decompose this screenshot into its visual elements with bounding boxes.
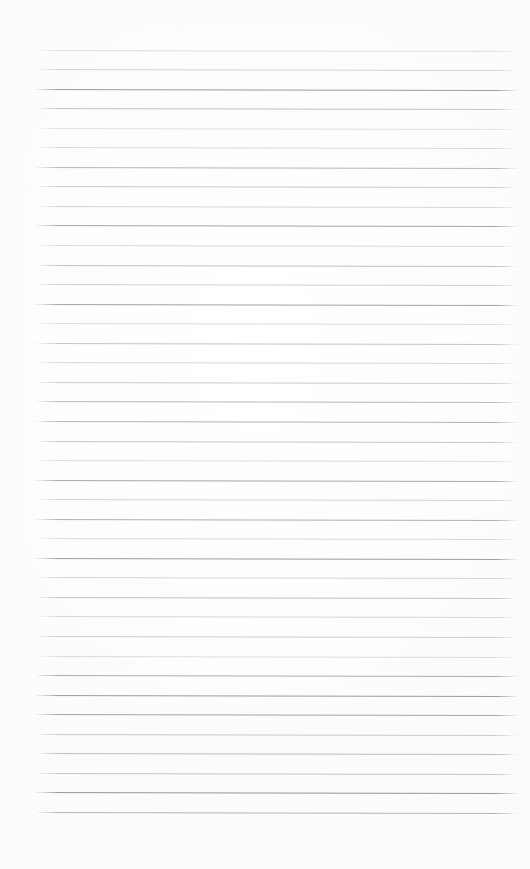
ruled-line — [33, 128, 521, 130]
ruled-line — [33, 225, 521, 227]
ruled-line — [33, 460, 521, 462]
ruled-line — [33, 108, 521, 110]
ruled-line — [33, 167, 521, 169]
ruled-line — [33, 714, 521, 716]
ruled-line — [33, 753, 521, 755]
ruled-line — [33, 616, 521, 618]
ruled-line — [33, 577, 521, 579]
ruled-line — [33, 792, 521, 794]
ruled-line — [33, 343, 521, 345]
scanned-page — [0, 0, 530, 869]
ruled-line — [33, 480, 521, 482]
ruled-line — [33, 147, 521, 149]
ruled-line — [33, 362, 521, 364]
ruled-line — [33, 636, 521, 638]
ruled-line — [33, 265, 521, 267]
ruled-line — [33, 382, 521, 384]
ruled-line — [33, 441, 521, 443]
ruled-line — [33, 206, 521, 208]
ruled-line — [33, 245, 521, 247]
ruled-line — [33, 597, 521, 599]
ruled-line — [33, 734, 521, 736]
ruled-line — [33, 656, 521, 658]
ruled-line — [33, 499, 521, 501]
ruled-lines-layer — [0, 0, 530, 869]
ruled-line — [33, 89, 521, 91]
ruled-line — [33, 773, 521, 775]
ruled-line — [33, 186, 521, 188]
ruled-line — [33, 304, 521, 306]
ruled-line — [33, 421, 521, 423]
ruled-line — [33, 323, 521, 325]
ruled-line — [33, 812, 521, 814]
ruled-line — [33, 401, 521, 403]
ruled-line — [33, 284, 521, 286]
ruled-line — [33, 538, 521, 540]
ruled-line — [33, 50, 521, 52]
ruled-line — [33, 519, 521, 521]
ruled-line — [33, 69, 521, 71]
ruled-line — [33, 675, 521, 677]
ruled-line — [33, 695, 521, 697]
ruled-line — [33, 558, 521, 560]
